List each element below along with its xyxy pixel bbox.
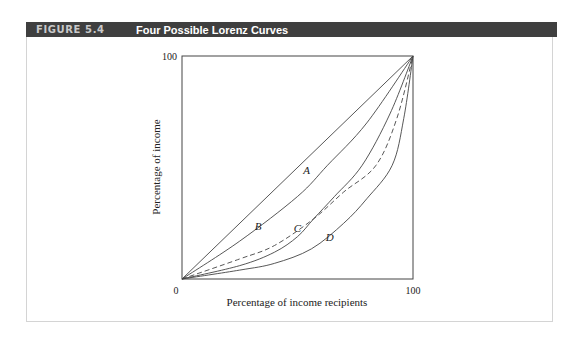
y-tick-100: 100	[162, 51, 177, 62]
label-c: C	[294, 222, 302, 234]
label-d: D	[325, 231, 334, 243]
x-tick-100: 100	[406, 285, 421, 296]
origin-tick: 0	[174, 285, 179, 296]
x-axis-label: Percentage of income recipients	[227, 296, 368, 308]
label-a: A	[302, 164, 310, 176]
curves-group	[182, 56, 413, 279]
label-b: B	[255, 220, 262, 232]
equality-line	[182, 56, 413, 279]
lorenz-chart: ABCD 100 0 100 Percentage of income reci…	[0, 0, 582, 342]
y-axis-label: Percentage of income	[150, 119, 162, 214]
curve-labels: ABCD	[255, 164, 334, 243]
